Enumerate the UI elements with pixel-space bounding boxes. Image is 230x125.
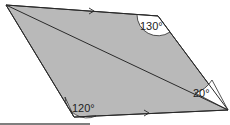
- parallelogram-shape: [6, 5, 228, 117]
- angle-label-120: 120°: [72, 102, 95, 114]
- angle-label-20: 20°: [193, 87, 210, 99]
- parallelogram-diagram: 130° 120° 20°: [0, 0, 230, 125]
- angle-label-130: 130°: [140, 20, 163, 32]
